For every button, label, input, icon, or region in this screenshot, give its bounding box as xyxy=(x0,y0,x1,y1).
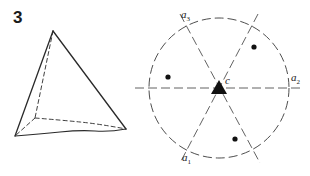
axis-label-a1: a1 xyxy=(182,151,191,166)
tetrahedron xyxy=(15,31,126,136)
center-label: c xyxy=(225,74,230,86)
figure: 3 a3 a2 a1 c xyxy=(0,0,310,176)
edge-base-front xyxy=(15,129,126,136)
axis-label-a2: a2 xyxy=(291,71,300,86)
axis-label-a3: a3 xyxy=(181,8,190,23)
edge-apex-left xyxy=(15,31,53,136)
symmetry-diagram xyxy=(135,14,303,163)
edge-hidden-right xyxy=(35,118,126,129)
point-3 xyxy=(232,136,237,141)
edge-apex-right xyxy=(53,31,126,129)
point-1 xyxy=(165,74,170,79)
diagram-canvas xyxy=(0,0,310,176)
point-2 xyxy=(251,44,256,49)
